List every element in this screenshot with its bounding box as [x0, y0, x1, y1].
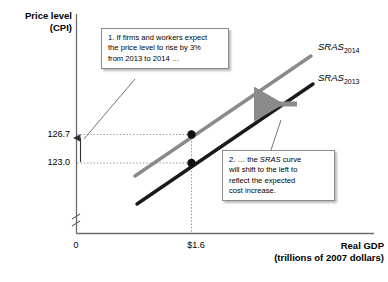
x-tick-label-1-6: $1.6: [176, 240, 216, 250]
y-axis-title-line2: (CPI): [6, 22, 72, 34]
sras-2014-label: SRAS2014: [318, 41, 359, 54]
callout-1-line-3: from 2013 to 2014 …: [108, 54, 223, 64]
callout-2-line-1: 2. … the SRAS curve: [229, 155, 329, 165]
y-axis-title: Price level (CPI): [6, 10, 72, 34]
callout-1-line-2: the price level to rise by 3%: [108, 43, 223, 53]
sras-2013-label-sub: 2013: [344, 78, 360, 85]
origin-label: 0: [66, 240, 86, 250]
sras-2014-label-sub: 2014: [344, 47, 360, 54]
callout-2-line-2: will shift to the left to: [229, 165, 329, 175]
sras-2013-label: SRAS2013: [318, 72, 359, 85]
callout-expectation: 1. If firms and workers expect the price…: [101, 28, 229, 69]
sras-2014-label-name: SRAS: [318, 41, 344, 52]
callout-2-suffix: curve: [281, 155, 302, 164]
callout-2-line-4: cost increase.: [229, 186, 329, 196]
equilibrium-point-2014: [187, 130, 195, 138]
x-axis-title-line2: (trillions of 2007 dollars): [184, 252, 384, 264]
callout-2-line-3: reflect the expected: [229, 176, 329, 186]
callout-2-prefix: 2. … the: [229, 155, 260, 164]
callout-1-line-1: 1. If firms and workers expect: [108, 33, 223, 43]
equilibrium-point-2013: [187, 159, 195, 167]
callout-2-sras-italic: SRAS: [260, 155, 281, 164]
sras-2013-label-name: SRAS: [318, 72, 344, 83]
y-axis-title-line1: Price level: [6, 10, 72, 22]
figure-canvas: Price level (CPI) Real GDP (trillions of…: [0, 0, 388, 282]
y-tick-label-126-7: 126.7: [30, 129, 70, 139]
y-tick-label-123-0: 123.0: [30, 157, 70, 167]
callout-curve-shift: 2. … the SRAS curve will shift to the le…: [222, 150, 335, 201]
callout-leader-lines: [84, 79, 281, 150]
